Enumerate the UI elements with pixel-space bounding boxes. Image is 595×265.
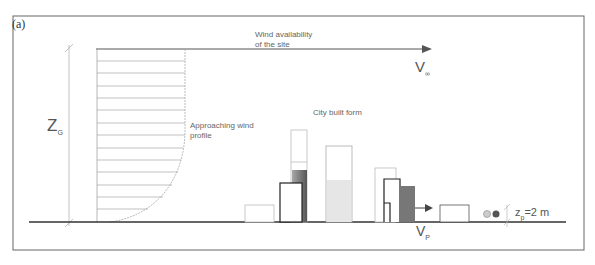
building-1 [245,205,274,222]
city-built-form-label: City built form [313,108,362,118]
building-7-hatched [400,186,415,222]
wind-availability-label: Wind availability of the site [255,30,312,50]
pedestrian-dark-icon [493,211,500,218]
v-p-main: V [416,223,425,239]
approach-line1: Approaching wind [190,121,254,131]
wind-availability-line2: of the site [255,40,312,50]
z-p-sub: p [521,214,525,221]
wind-availability-line1: Wind availability [255,30,312,40]
building-6-stepped [384,179,400,222]
v-p-label: VP [416,223,430,239]
panel-label: (a) [12,17,25,32]
z-p-label: zp=2 m [515,206,549,218]
z-g-sub: G [57,129,62,136]
z-p-value: =2 m [524,206,549,218]
z-p-main: z [515,206,521,218]
v-p-sub: P [425,234,430,241]
approach-line2: profile [190,131,254,141]
v-infinity-main: V [415,58,425,75]
city-buildings [245,130,469,222]
approaching-wind-profile [97,49,185,222]
building-8 [440,205,469,222]
z-g-label: ZG [47,116,63,136]
v-infinity-label: V∞ [415,58,430,75]
building-4-shade [327,180,351,222]
pedestrian-wind-arrow [415,204,433,212]
pedestrian-light-icon [484,211,491,218]
approaching-wind-label: Approaching wind profile [190,121,254,141]
z-g-main: Z [47,116,57,135]
gradient-height-dimension [65,44,73,227]
v-infinity-sub: ∞ [425,70,430,77]
building-3 [280,183,302,222]
pedestrian-height-dimension [504,204,510,227]
